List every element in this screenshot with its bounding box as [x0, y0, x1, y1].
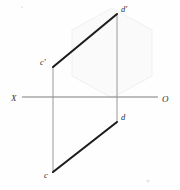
label-d-prime: d' [121, 4, 127, 14]
diagram-canvas: c' d' c d X O [0, 0, 180, 190]
paper-speck [21, 6, 23, 8]
segment-horizontal-projection [53, 122, 117, 172]
label-axis-o: O [162, 94, 169, 104]
label-c: c [44, 170, 48, 180]
projection-diagram: c' d' c d X O [0, 0, 180, 190]
label-c-prime: c' [40, 57, 46, 67]
paper-speck [146, 179, 149, 182]
label-d: d [121, 112, 126, 122]
hexagon-watermark [72, 8, 152, 98]
label-axis-x: X [10, 93, 17, 103]
